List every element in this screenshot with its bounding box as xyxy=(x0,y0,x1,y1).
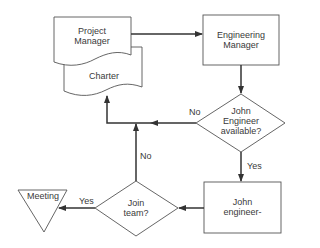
join-team-line1: Join xyxy=(111,198,161,208)
engineer-available-line1: John xyxy=(211,106,271,116)
engineering-manager-line1: Engineering xyxy=(203,30,279,40)
engineer-available-line2: Engineer xyxy=(211,116,271,126)
john-engineer-label: John engineer- xyxy=(204,197,281,217)
edge-label-join-no: No xyxy=(140,151,152,161)
project-manager-line2: Manager xyxy=(64,36,120,46)
project-manager-label: Project Manager xyxy=(64,26,120,46)
edge-label-available-yes: Yes xyxy=(247,161,262,171)
john-engineer-line1: John xyxy=(204,197,281,207)
edge-available-no-arrowhead xyxy=(150,120,158,126)
meeting-label: Meeting xyxy=(20,191,66,201)
project-manager-line1: Project xyxy=(64,26,120,36)
edge-label-join-yes: Yes xyxy=(79,196,94,206)
edge-available-no-to-charter xyxy=(107,96,196,123)
engineer-available-label: John Engineer available? xyxy=(211,106,271,136)
join-team-label: Join team? xyxy=(111,198,161,218)
john-engineer-line2: engineer- xyxy=(204,207,281,217)
join-team-line2: team? xyxy=(111,208,161,218)
engineer-available-line3: available? xyxy=(211,126,271,136)
engineering-manager-label: Engineering Manager xyxy=(203,30,279,50)
charter-label: Charter xyxy=(76,71,132,81)
engineering-manager-line2: Manager xyxy=(203,40,279,50)
edge-label-available-no: No xyxy=(189,107,201,117)
